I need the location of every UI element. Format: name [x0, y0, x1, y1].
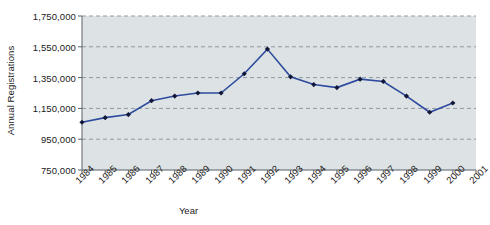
plot-background [82, 16, 476, 170]
x-axis-title-text: Year [0, 205, 432, 216]
x-axis-title: Year [0, 0, 432, 20]
y-axis-tick-marks [78, 16, 82, 170]
